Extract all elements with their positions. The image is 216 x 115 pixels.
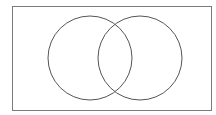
right-set-circle (98, 16, 182, 100)
left-set-circle (48, 16, 132, 100)
venn-diagram (0, 0, 216, 115)
